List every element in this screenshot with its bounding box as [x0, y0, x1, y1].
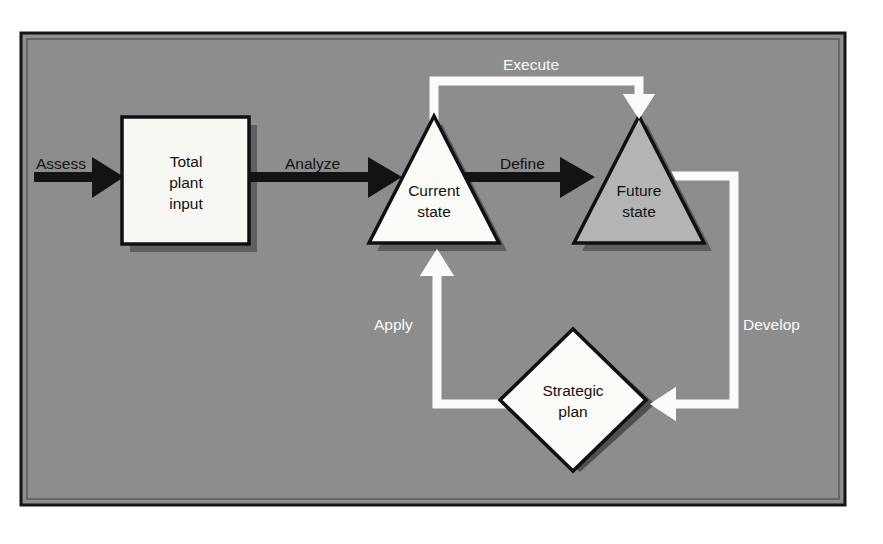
assess-arrow-shaft: [34, 172, 94, 182]
total-plant-input-label-line-3: input: [169, 195, 203, 212]
future-state-label-line-1: Future: [617, 182, 662, 199]
connector-label-apply: Apply: [374, 316, 413, 333]
connector-label-analyze: Analyze: [285, 155, 340, 172]
total-plant-input-label-line-1: Total: [170, 153, 203, 170]
strategic-plan-label-line-2: plan: [558, 403, 587, 420]
future-state-label-line-2: state: [622, 203, 656, 220]
connector-label-assess: Assess: [36, 155, 86, 172]
connector-label-define: Define: [500, 155, 545, 172]
analyze-arrow-shaft: [250, 172, 372, 182]
current-state-label-line-2: state: [417, 203, 451, 220]
strategic-plan-label-line-1: Strategic: [542, 382, 603, 399]
current-state-label-line-1: Current: [408, 182, 460, 199]
total-plant-input-label-line-2: plant: [169, 174, 203, 191]
node-total-plant-input[interactable]: Total plant input: [122, 117, 249, 244]
process-flow-diagram: Execute Develop Apply Assess: [0, 0, 883, 544]
define-arrow-shaft: [465, 172, 564, 182]
connector-label-execute: Execute: [503, 56, 559, 73]
connector-label-develop: Develop: [743, 316, 800, 333]
diagram-page: Execute Develop Apply Assess: [0, 0, 883, 544]
